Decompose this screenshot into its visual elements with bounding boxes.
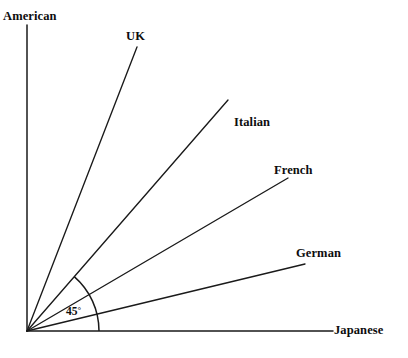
angle-fan-diagram: AmericanUKItalianFrenchGermanJapanese 45… (0, 0, 408, 358)
ray-label-italian: Italian (234, 116, 270, 129)
ray-line-uk (27, 47, 137, 331)
angle-marker-value: 45 (66, 305, 78, 317)
ray-label-japanese: Japanese (334, 324, 383, 337)
angle-marker-label: 45° (66, 306, 81, 318)
ray-label-uk: UK (126, 30, 145, 43)
ray-label-german: German (296, 247, 341, 260)
ray-lines-group (27, 25, 333, 331)
angle-arc (74, 277, 99, 331)
ray-line-italian (27, 100, 228, 331)
ray-label-french: French (274, 164, 313, 177)
ray-label-american: American (3, 10, 57, 23)
diagram-canvas (0, 0, 408, 358)
degree-symbol-icon: ° (78, 305, 82, 315)
angle-arc-group (74, 277, 99, 331)
ray-line-german (27, 264, 305, 331)
